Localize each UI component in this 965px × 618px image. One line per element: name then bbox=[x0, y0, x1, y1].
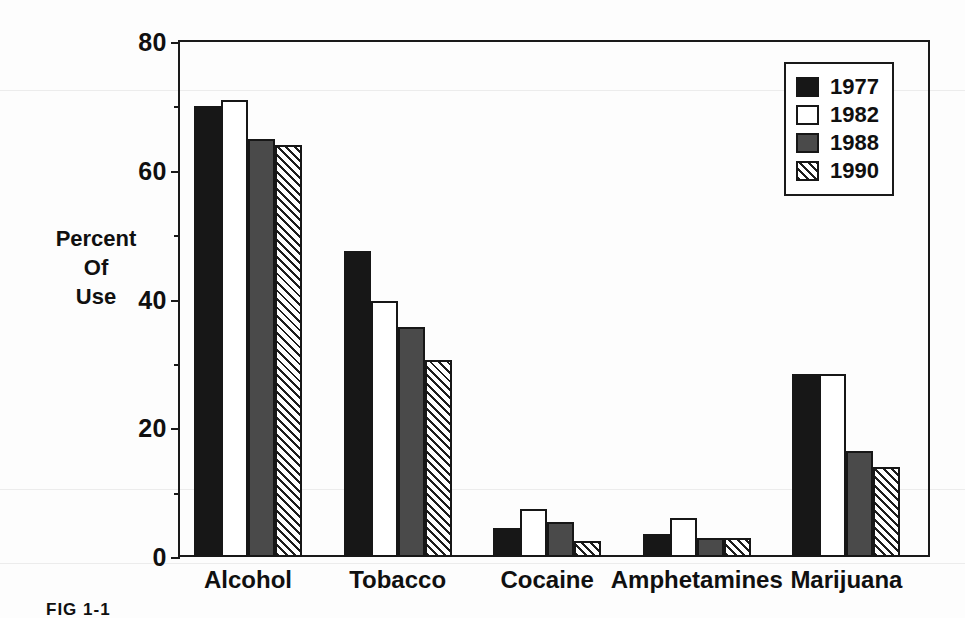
y-axis-major-tick bbox=[171, 428, 180, 430]
y-axis-major-tick bbox=[171, 171, 180, 173]
y-axis-tick-label: 0 bbox=[153, 543, 167, 572]
gray-swatch bbox=[796, 133, 819, 153]
y-axis-tick-label: 80 bbox=[138, 28, 167, 57]
bar-group: Cocaine bbox=[493, 42, 601, 557]
legend-item-label: 1977 bbox=[830, 76, 879, 98]
y-axis-title-line: Percent bbox=[36, 224, 156, 253]
bar[interactable] bbox=[221, 100, 248, 557]
y-axis-tick-label: 60 bbox=[138, 156, 167, 185]
bar[interactable] bbox=[697, 538, 724, 557]
x-axis-category-label: Cocaine bbox=[501, 566, 594, 594]
bar[interactable] bbox=[574, 541, 601, 557]
diagonal-hatch-swatch bbox=[796, 161, 819, 181]
bar[interactable] bbox=[724, 538, 751, 557]
y-axis-minor-tick bbox=[174, 493, 180, 495]
y-axis-title-line: Of bbox=[36, 253, 156, 282]
legend-item-label: 1982 bbox=[830, 104, 879, 126]
y-axis-major-tick bbox=[171, 42, 180, 44]
y-axis-major-tick bbox=[171, 300, 180, 302]
bar[interactable] bbox=[425, 360, 452, 557]
bar[interactable] bbox=[194, 106, 221, 557]
y-axis-tick-label: 20 bbox=[138, 414, 167, 443]
bar-group-bars bbox=[194, 42, 302, 557]
bar[interactable] bbox=[819, 374, 846, 557]
y-axis-tick-label: 40 bbox=[138, 285, 167, 314]
chart-legend: 1977198219881990 bbox=[784, 62, 894, 196]
scan-artifact-line bbox=[0, 563, 965, 564]
bar[interactable] bbox=[873, 467, 900, 557]
bar[interactable] bbox=[792, 374, 819, 557]
legend-item[interactable]: 1990 bbox=[796, 157, 879, 185]
bar[interactable] bbox=[493, 528, 520, 557]
y-axis-minor-tick bbox=[174, 364, 180, 366]
y-axis-minor-tick bbox=[174, 235, 180, 237]
bar[interactable] bbox=[398, 327, 425, 557]
bar[interactable] bbox=[248, 139, 275, 557]
figure-caption: FIG 1-1 bbox=[46, 600, 111, 618]
x-axis-category-label: Amphetamines bbox=[611, 566, 783, 594]
bar[interactable] bbox=[846, 451, 873, 557]
solid-black-swatch bbox=[796, 77, 819, 97]
bar-group: Amphetamines bbox=[643, 42, 751, 557]
legend-item-label: 1990 bbox=[830, 160, 879, 182]
y-axis-minor-tick bbox=[174, 106, 180, 108]
bar[interactable] bbox=[643, 534, 670, 557]
bar[interactable] bbox=[547, 522, 574, 557]
bar[interactable] bbox=[275, 145, 302, 557]
x-axis-category-label: Alcohol bbox=[204, 566, 292, 594]
legend-item-label: 1988 bbox=[830, 132, 879, 154]
bar-group: Alcohol bbox=[194, 42, 302, 557]
bar[interactable] bbox=[670, 518, 697, 557]
figure-bar-chart: PercentOfUse 020406080 AlcoholTobaccoCoc… bbox=[0, 0, 965, 618]
legend-item[interactable]: 1988 bbox=[796, 129, 879, 157]
bar-group: Tobacco bbox=[344, 42, 452, 557]
bar-group-bars bbox=[643, 42, 751, 557]
bar-group-bars bbox=[344, 42, 452, 557]
y-axis-major-tick bbox=[171, 557, 180, 559]
x-axis-category-label: Marijuana bbox=[790, 566, 902, 594]
bar[interactable] bbox=[371, 301, 398, 557]
legend-item[interactable]: 1982 bbox=[796, 101, 879, 129]
bar[interactable] bbox=[520, 509, 547, 557]
white-swatch bbox=[796, 105, 819, 125]
x-axis-category-label: Tobacco bbox=[349, 566, 446, 594]
bar[interactable] bbox=[344, 251, 371, 557]
bar-group-bars bbox=[493, 42, 601, 557]
legend-item[interactable]: 1977 bbox=[796, 73, 879, 101]
